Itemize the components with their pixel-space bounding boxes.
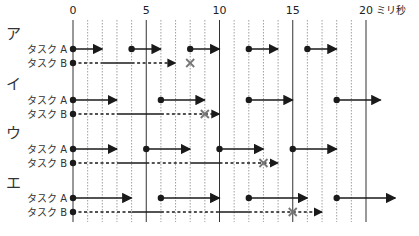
task-a-label: タスク A (27, 44, 67, 55)
tick-label: 0 (70, 4, 77, 17)
task-a-start-dot (70, 46, 76, 52)
task-a-start-dot (334, 195, 340, 201)
task-a-start-dot (158, 97, 164, 103)
section-label: ア (6, 25, 21, 43)
task-a-start-dot (70, 195, 76, 201)
task-a-start-dot (290, 146, 296, 152)
task-a-start-dot (158, 195, 164, 201)
task-a-label: タスク A (27, 193, 67, 204)
unit-label: ミリ秒 (376, 4, 406, 16)
section-2: イタスク Aタスク B (6, 75, 381, 120)
task-b-start-dot (70, 60, 76, 66)
task-a-start-dot (246, 97, 252, 103)
section-4: エタスク Aタスク B (6, 174, 395, 218)
tick-label: 15 (286, 4, 300, 17)
section-1: アタスク Aタスク B (6, 25, 337, 69)
task-b-label: タスク B (27, 158, 67, 169)
task-a-start-dot (246, 195, 252, 201)
task-a-label: タスク A (27, 95, 67, 106)
task-a-start-dot (70, 97, 76, 103)
task-timeline-diagram: 05101520ミリ秒 アタスク Aタスク Bイタスク Aタスク Bウタスク A… (0, 0, 419, 236)
section-3: ウタスク Aタスク B (6, 124, 337, 169)
time-grid (73, 20, 366, 222)
task-a-label: タスク A (27, 144, 67, 155)
tick-label: 5 (143, 4, 150, 17)
tick-label: 20 (359, 4, 373, 17)
task-a-start-dot (246, 46, 252, 52)
task-b-label: タスク B (27, 109, 67, 120)
task-a-start-dot (128, 46, 134, 52)
task-a-start-dot (187, 46, 193, 52)
task-a-start-dot (143, 146, 149, 152)
task-b-start-dot (70, 111, 76, 117)
task-b-label: タスク B (27, 58, 67, 69)
task-a-start-dot (304, 46, 310, 52)
task-a-start-dot (70, 146, 76, 152)
task-b-start-dot (70, 160, 76, 166)
time-axis-ticks: 05101520ミリ秒 (70, 4, 407, 17)
section-label: エ (6, 174, 21, 192)
section-label: イ (6, 75, 21, 93)
task-b-label: タスク B (27, 207, 67, 218)
task-a-start-dot (216, 146, 222, 152)
tick-label: 10 (213, 4, 227, 17)
task-b-start-dot (70, 209, 76, 215)
section-label: ウ (6, 124, 21, 142)
task-a-start-dot (334, 97, 340, 103)
